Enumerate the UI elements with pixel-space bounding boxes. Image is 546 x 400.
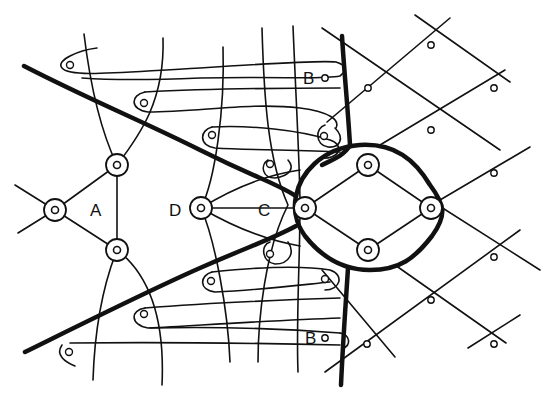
boundary-upper-diagonal [24,66,296,196]
label-B-top: B [303,69,314,88]
diagram-canvas: A D C B B [0,0,546,400]
ring-node-left [44,199,66,221]
diagram-figure: A D C B B [0,0,546,400]
label-A: A [90,201,102,220]
ring-node-D [190,197,212,219]
label-B-bottom: B [305,329,316,348]
ring-node-center-left [294,197,316,219]
ring-node-A-bottom [106,239,128,261]
ring-node-center-bottom [357,239,379,261]
label-D: D [169,201,181,220]
upper-loops [61,48,345,178]
boundary-vertical-bottom [341,268,348,385]
ring-node-A-top [106,154,128,176]
label-C: C [258,201,270,220]
ring-node-center-top [357,154,379,176]
ring-node-center-right [420,197,442,219]
